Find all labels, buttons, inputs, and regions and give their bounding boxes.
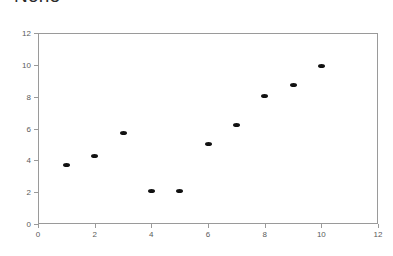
data-point (318, 64, 325, 68)
x-axis-tick-label: 2 (92, 230, 96, 239)
data-point (120, 131, 127, 135)
x-axis-tick (321, 224, 322, 228)
y-axis-tick (34, 160, 38, 161)
y-axis-tick-label: 2 (8, 188, 31, 197)
y-axis-tick (34, 192, 38, 193)
data-point (63, 163, 70, 167)
chart-figure: None 024681012024681012 (0, 0, 393, 256)
data-point (205, 142, 212, 146)
x-axis-tick (38, 224, 39, 228)
x-axis-tick (151, 224, 152, 228)
y-axis-tick (34, 97, 38, 98)
y-axis-tick (34, 33, 38, 34)
y-axis-tick-label: 8 (8, 92, 31, 101)
x-axis-tick-label: 12 (374, 230, 383, 239)
y-axis-tick-label: 12 (8, 29, 31, 38)
plot-area (38, 33, 378, 224)
x-axis-tick (265, 224, 266, 228)
y-axis-tick (34, 65, 38, 66)
data-point (290, 83, 297, 87)
data-point (148, 189, 155, 193)
data-point (91, 154, 98, 158)
data-point (176, 189, 183, 193)
y-axis-tick-label: 4 (8, 156, 31, 165)
x-axis-tick (208, 224, 209, 228)
page-title: None (14, 0, 60, 6)
y-axis-tick-label: 0 (8, 220, 31, 229)
data-point (233, 123, 240, 127)
x-axis-tick (95, 224, 96, 228)
x-axis-tick-label: 6 (206, 230, 210, 239)
x-axis-tick (378, 224, 379, 228)
y-axis-tick (34, 129, 38, 130)
x-axis-tick-label: 8 (262, 230, 266, 239)
x-axis-tick-label: 4 (149, 230, 153, 239)
y-axis-tick-label: 10 (8, 60, 31, 69)
y-axis-tick (34, 224, 38, 225)
data-point (261, 94, 268, 98)
y-axis-tick-label: 6 (8, 124, 31, 133)
x-axis-tick-label: 0 (36, 230, 40, 239)
x-axis-tick-label: 10 (317, 230, 326, 239)
